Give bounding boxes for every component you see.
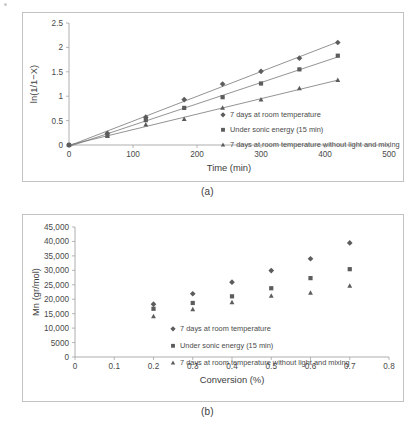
plot-area: 010020030040050000.511.522.5Time (min)ln… bbox=[28, 19, 400, 173]
marker-triangle bbox=[171, 360, 175, 364]
y-tick-label: 20,000 bbox=[44, 295, 69, 304]
legend: 7 days at room temperatureUnder sonic en… bbox=[220, 110, 399, 149]
x-tick-label: 0 bbox=[73, 362, 78, 371]
y-tick-label: 1.5 bbox=[52, 68, 64, 77]
marker-triangle bbox=[151, 314, 156, 319]
caption-a: (a) bbox=[0, 186, 415, 197]
marker-square bbox=[269, 286, 273, 290]
x-axis-title: Conversion (%) bbox=[200, 374, 265, 385]
marker-square bbox=[230, 294, 234, 298]
y-tick-label: 40,000 bbox=[44, 237, 69, 246]
marker-diamond bbox=[151, 301, 157, 307]
marker-triangle bbox=[335, 77, 340, 82]
y-tick-label: 45,000 bbox=[44, 223, 69, 232]
y-tick-label: 2 bbox=[58, 43, 63, 52]
marker-square bbox=[259, 81, 263, 85]
x-axis-title: Time (min) bbox=[207, 162, 251, 173]
marker-triangle bbox=[269, 293, 274, 298]
marker-square bbox=[182, 106, 186, 110]
figure-page: 010020030040050000.511.522.5Time (min)ln… bbox=[0, 0, 415, 442]
chart-panel-a: 010020030040050000.511.522.5Time (min)ln… bbox=[22, 12, 404, 182]
y-tick-label: 35,000 bbox=[44, 252, 69, 261]
chart-a-canvas: 010020030040050000.511.522.5Time (min)ln… bbox=[23, 13, 403, 181]
y-tick-label: 25,000 bbox=[44, 281, 69, 290]
x-tick-label: 100 bbox=[126, 150, 140, 159]
y-tick-label: 0.5 bbox=[52, 117, 64, 126]
marker-square bbox=[171, 344, 175, 348]
marker-diamond bbox=[220, 112, 225, 117]
caption-b: (b) bbox=[0, 406, 415, 417]
legend: 7 days at room temperatureUnder sonic en… bbox=[170, 324, 349, 367]
y-tick-label: 10,000 bbox=[44, 324, 69, 333]
marker-square bbox=[191, 301, 195, 305]
y-axis-title: ln(1/1−X) bbox=[28, 65, 39, 103]
series-2 bbox=[151, 267, 351, 311]
marker-diamond bbox=[229, 279, 235, 285]
marker-square bbox=[308, 276, 312, 280]
marker-triangle bbox=[230, 300, 235, 305]
legend-label: 7 days at room temperature without light… bbox=[180, 358, 350, 367]
marker-triangle bbox=[221, 142, 225, 146]
marker-diamond bbox=[347, 240, 353, 246]
marker-square bbox=[144, 118, 148, 122]
chart-panel-b: 00.10.20.30.40.50.60.70.80500010,00015,0… bbox=[22, 214, 404, 402]
marker-diamond bbox=[190, 291, 196, 297]
marker-diamond bbox=[268, 268, 274, 274]
marker-square bbox=[336, 54, 340, 58]
x-tick-label: 300 bbox=[254, 150, 268, 159]
marker-square bbox=[221, 95, 225, 99]
x-tick-label: 400 bbox=[318, 150, 332, 159]
marker-triangle bbox=[308, 290, 313, 295]
x-tick-label: 0 bbox=[67, 150, 72, 159]
series-3 bbox=[151, 283, 352, 318]
x-tick-label: 500 bbox=[382, 150, 396, 159]
marker-triangle bbox=[143, 122, 148, 127]
x-tick-label: 0.8 bbox=[383, 362, 395, 371]
legend-label: 7 days at room temperature without light… bbox=[230, 140, 400, 149]
y-tick-label: 2.5 bbox=[52, 19, 64, 28]
y-tick-label: 0 bbox=[58, 141, 63, 150]
marker-square bbox=[348, 267, 352, 271]
marker-diamond bbox=[335, 40, 341, 46]
marker-square bbox=[297, 67, 301, 71]
chart-b-canvas: 00.10.20.30.40.50.60.70.80500010,00015,0… bbox=[23, 215, 403, 401]
marker-triangle bbox=[190, 307, 195, 312]
x-tick-label: 0.2 bbox=[148, 362, 160, 371]
marker-diamond bbox=[308, 256, 314, 262]
scan-speck bbox=[4, 3, 7, 6]
legend-label: Under sonic energy (15 min) bbox=[230, 125, 323, 134]
marker-diamond bbox=[258, 68, 264, 74]
x-tick-label: 0.1 bbox=[109, 362, 121, 371]
marker-diamond bbox=[181, 97, 187, 103]
marker-square bbox=[221, 128, 225, 132]
y-tick-label: 0 bbox=[64, 353, 69, 362]
y-axis-title: Mn (gr/mol) bbox=[30, 268, 41, 316]
legend-label: 7 days at room temperature bbox=[180, 324, 271, 333]
legend-label: 7 days at room temperature bbox=[230, 110, 321, 119]
y-tick-label: 5000 bbox=[51, 339, 70, 348]
x-tick-label: 200 bbox=[190, 150, 204, 159]
marker-triangle bbox=[297, 86, 302, 91]
marker-square bbox=[151, 307, 155, 311]
y-tick-label: 30,000 bbox=[44, 266, 69, 275]
y-tick-label: 1 bbox=[58, 92, 63, 101]
y-tick-label: 15,000 bbox=[44, 310, 69, 319]
marker-triangle bbox=[347, 283, 352, 288]
marker-diamond bbox=[170, 326, 175, 331]
legend-label: Under sonic energy (15 min) bbox=[180, 341, 273, 350]
series-1 bbox=[151, 240, 353, 307]
plot-area: 00.10.20.30.40.50.60.70.80500010,00015,0… bbox=[30, 223, 395, 385]
